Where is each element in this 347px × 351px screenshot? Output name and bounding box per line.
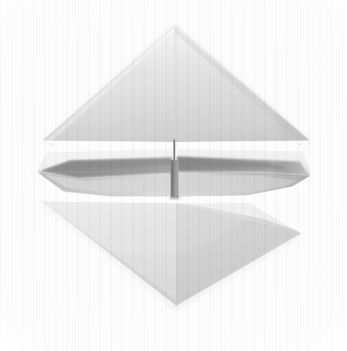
photo-canvas: Origami model photographed against a nea… [0,0,347,351]
origami-photograph [0,0,347,351]
light-falloff [20,25,280,255]
